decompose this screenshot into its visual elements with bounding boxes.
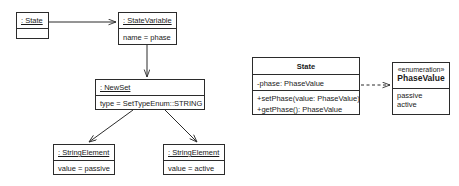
object-statevariable-name: : StateVariable xyxy=(123,16,172,25)
class-state-operation-getphase: +getPhase(): PhaseValue xyxy=(257,104,355,115)
uml-diagram-canvas: : State : StateVariable name = phase : N… xyxy=(0,0,459,186)
object-state-name: : State xyxy=(21,16,43,25)
class-state[interactable]: State -phase: PhaseValue +setPhase(value… xyxy=(252,57,360,115)
enumeration-literal-active: active xyxy=(397,100,445,109)
connector-newset-to-stringelement-active xyxy=(165,110,197,142)
object-newset[interactable]: : NewSet type = SetTypeEnum::STRING xyxy=(95,79,205,110)
object-state-header: : State xyxy=(17,13,48,28)
enumeration-phasevalue-name: PhaseValue xyxy=(397,74,445,84)
class-state-operations: +setPhase(value: PhaseValue) +getPhase()… xyxy=(253,90,359,115)
enumeration-phasevalue-header: «enumeration» PhaseValue xyxy=(393,63,449,88)
object-newset-attribute-type: type = SetTypeEnum::STRING xyxy=(96,95,204,110)
object-newset-name: : NewSet xyxy=(100,83,130,92)
object-statevariable[interactable]: : StateVariable name = phase xyxy=(118,12,177,45)
object-stringelement-passive-name: : StringElement xyxy=(58,148,109,157)
enumeration-phasevalue[interactable]: «enumeration» PhaseValue passive active xyxy=(392,62,450,115)
connector-newset-to-stringelement-passive xyxy=(89,110,133,142)
object-stringelement-passive-header: : StringElement xyxy=(54,145,114,160)
object-state-empty-compartment xyxy=(17,28,48,39)
object-stringelement-active-attribute-value: value = active xyxy=(164,160,224,175)
object-stringelement-active-name: : StringElement xyxy=(168,148,219,157)
object-stringelement-passive-attribute-value: value = passive xyxy=(54,160,114,175)
class-state-attribute-phase: -phase: PhaseValue xyxy=(253,74,359,90)
object-statevariable-header: : StateVariable xyxy=(119,13,176,28)
object-newset-header: : NewSet xyxy=(96,80,204,95)
object-stringelement-active[interactable]: : StringElement value = active xyxy=(163,144,225,175)
object-statevariable-attribute-name: name = phase xyxy=(119,28,176,45)
class-state-operation-setphase: +setPhase(value: PhaseValue) xyxy=(257,93,355,104)
object-stringelement-passive[interactable]: : StringElement value = passive xyxy=(53,144,115,175)
object-state[interactable]: : State xyxy=(16,12,49,39)
enumeration-literal-passive: passive xyxy=(397,91,445,100)
object-stringelement-active-header: : StringElement xyxy=(164,145,224,160)
class-state-name: State xyxy=(253,58,359,74)
enumeration-phasevalue-literals: passive active xyxy=(393,88,449,115)
